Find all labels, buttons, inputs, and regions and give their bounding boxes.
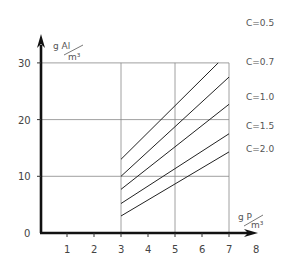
legend: C=0.5 C=0.7 C=1.0 C=1.5 C=2.0: [246, 18, 274, 154]
y-unit-denominator: m³: [68, 52, 81, 62]
x-tick-label: 8: [253, 244, 259, 255]
chart: 12345678102030 0 g Al m³ g P m³ C=0.5 C=…: [0, 0, 289, 268]
x-axis-unit: g P m³: [238, 212, 264, 230]
x-unit-denominator: m³: [251, 220, 264, 230]
x-tick-label: 6: [199, 244, 205, 255]
series-line: [121, 63, 218, 159]
legend-item: C=1.5: [246, 121, 274, 131]
legend-item: C=1.0: [246, 92, 274, 102]
tick-labels: 12345678102030: [18, 58, 259, 255]
x-tick-label: 5: [172, 244, 178, 255]
legend-item: C=2.0: [246, 144, 274, 154]
x-tick-label: 1: [64, 244, 70, 255]
axes: [37, 34, 258, 237]
y-axis-unit: g Al m³: [53, 41, 83, 62]
y-tick-label: 30: [18, 58, 31, 69]
legend-item: C=0.5: [246, 18, 274, 28]
x-tick-label: 3: [118, 244, 124, 255]
y-unit-numerator: g Al: [53, 41, 70, 51]
x-tick-label: 4: [145, 244, 151, 255]
legend-item: C=0.7: [246, 57, 274, 67]
tick-marks: [37, 63, 229, 237]
y-tick-label: 20: [18, 115, 31, 126]
x-tick-label: 7: [226, 244, 232, 255]
x-tick-label: 2: [91, 244, 97, 255]
y-tick-label: 10: [18, 171, 31, 182]
origin-label: 0: [24, 228, 30, 239]
